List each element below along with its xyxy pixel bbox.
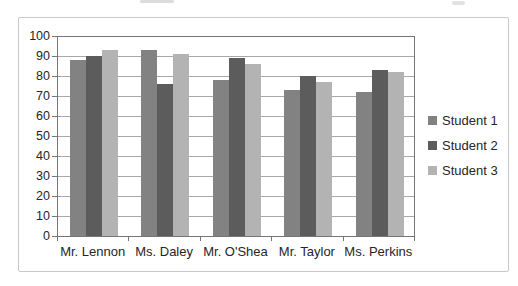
x-axis-label-ms-perkins: Ms. Perkins — [338, 244, 418, 260]
legend-label-student-1: Student 1 — [442, 113, 498, 128]
y-axis-tick-70 — [52, 96, 57, 97]
y-axis-label-60: 60 — [20, 109, 50, 123]
y-axis-label-40: 40 — [20, 149, 50, 163]
y-axis-label-70: 70 — [20, 89, 50, 103]
bar-ms-daley-series-3 — [173, 54, 189, 236]
bar-ms-perkins-series-1 — [356, 92, 372, 236]
y-axis-label-10: 10 — [20, 209, 50, 223]
y-axis-tick-30 — [52, 176, 57, 177]
legend-entry-student-3: Student 3 — [428, 158, 498, 183]
chart-legend: Student 1 Student 2 Student 3 — [428, 108, 498, 183]
x-axis-label-mr-lennon: Mr. Lennon — [53, 244, 133, 260]
chart-screenshot: 0102030405060708090100Mr. LennonMs. Dale… — [0, 0, 518, 286]
y-axis-tick-20 — [52, 196, 57, 197]
y-axis-label-90: 90 — [20, 49, 50, 63]
y-axis-tick-80 — [52, 76, 57, 77]
x-axis-tick-3 — [271, 236, 272, 241]
x-axis-tick-end — [414, 236, 415, 241]
bar-ms-daley-series-1 — [141, 50, 157, 236]
x-axis-tick-2 — [200, 236, 201, 241]
y-axis-tick-60 — [52, 116, 57, 117]
x-axis-label-mr-taylor: Mr. Taylor — [267, 244, 347, 260]
x-axis-line — [57, 236, 415, 237]
y-axis-tick-90 — [52, 56, 57, 57]
bar-mr-o-shea-series-3 — [245, 64, 261, 236]
y-axis-tick-40 — [52, 156, 57, 157]
plot-border-right — [414, 36, 415, 236]
x-axis-label-mr-o-shea: Mr. O'Shea — [196, 244, 276, 260]
legend-label-student-2: Student 2 — [442, 138, 498, 153]
legend-label-student-3: Student 3 — [442, 163, 498, 178]
bar-mr-taylor-series-3 — [316, 82, 332, 236]
x-axis-tick-4 — [343, 236, 344, 241]
y-axis-label-20: 20 — [20, 189, 50, 203]
y-axis-label-30: 30 — [20, 169, 50, 183]
bar-mr-taylor-series-1 — [284, 90, 300, 236]
x-axis-tick-0 — [57, 236, 58, 241]
legend-swatch-student-1 — [428, 116, 437, 125]
y-axis-tick-100 — [52, 36, 57, 37]
bar-mr-lennon-series-1 — [70, 60, 86, 236]
y-axis-tick-10 — [52, 216, 57, 217]
y-axis-tick-50 — [52, 136, 57, 137]
bar-ms-perkins-series-2 — [372, 70, 388, 236]
legend-swatch-student-2 — [428, 141, 437, 150]
y-axis-label-0: 0 — [20, 229, 50, 243]
bar-mr-lennon-series-3 — [102, 50, 118, 236]
y-axis-label-50: 50 — [20, 129, 50, 143]
bar-ms-perkins-series-3 — [388, 72, 404, 236]
y-axis-label-80: 80 — [20, 69, 50, 83]
bar-mr-o-shea-series-2 — [229, 58, 245, 236]
plot-border-top — [57, 36, 414, 37]
legend-swatch-student-3 — [428, 166, 437, 175]
y-axis-line — [57, 36, 58, 237]
x-axis-tick-1 — [128, 236, 129, 241]
legend-entry-student-2: Student 2 — [428, 133, 498, 158]
x-axis-label-ms-daley: Ms. Daley — [124, 244, 204, 260]
bar-mr-taylor-series-2 — [300, 76, 316, 236]
bar-ms-daley-series-2 — [157, 84, 173, 236]
bar-mr-lennon-series-2 — [86, 56, 102, 236]
legend-entry-student-1: Student 1 — [428, 108, 498, 133]
bar-mr-o-shea-series-1 — [213, 80, 229, 236]
y-axis-label-100: 100 — [20, 29, 50, 43]
